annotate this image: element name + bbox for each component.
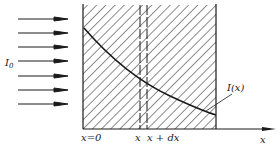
intensity-curve-label: I(x): [226, 82, 244, 93]
medium-hatched-region: [83, 5, 216, 129]
arrow-icon: [18, 74, 68, 78]
arrow-icon: [18, 45, 68, 49]
arrow-icon: [18, 59, 68, 63]
x-axis-label: x: [260, 134, 266, 145]
arrow-icon: [18, 102, 68, 106]
x-axis-arrow-icon: [262, 127, 276, 131]
slab-right-label: x + dx: [147, 132, 180, 143]
beam-attenuation-diagram: I0 I(x) x=0 x x + dx x: [0, 0, 280, 147]
incident-beam-arrows: [18, 17, 68, 106]
slab-left-label: x: [135, 132, 141, 143]
incident-intensity-label: I0: [4, 57, 14, 70]
arrow-icon: [18, 31, 68, 35]
arrow-icon: [18, 88, 68, 92]
arrow-icon: [18, 17, 68, 21]
origin-label: x=0: [81, 132, 102, 143]
